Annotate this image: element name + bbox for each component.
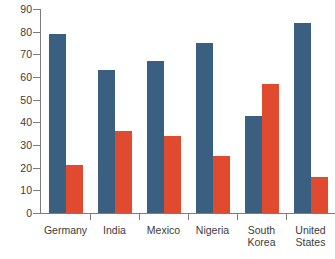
bar-group [286, 9, 335, 213]
x-tick [139, 213, 140, 220]
bar [262, 84, 279, 213]
y-tick-40 [33, 122, 40, 123]
bar [213, 156, 230, 213]
bar [196, 43, 213, 213]
y-tick-30 [33, 145, 40, 146]
y-tick-90 [33, 9, 40, 10]
bar [294, 23, 311, 213]
bar-group [237, 9, 286, 213]
y-axis-labels: 0102030405060708090 [0, 0, 32, 259]
bar [147, 61, 164, 213]
bar [98, 70, 115, 213]
y-tick-10 [33, 190, 40, 191]
y-tick-label-0: 0 [6, 208, 32, 218]
bar [115, 131, 132, 213]
x-tick [286, 213, 287, 220]
bar [245, 116, 262, 213]
bar-group [41, 9, 90, 213]
bar-chart: 0102030405060708090 GermanyIndiaMexicoNi… [0, 0, 335, 259]
bar-group [139, 9, 188, 213]
y-tick-20 [33, 168, 40, 169]
plot-area [41, 9, 335, 213]
x-tick-label: United States [286, 224, 335, 248]
y-tick-0 [33, 213, 40, 214]
y-tick-label-90: 90 [6, 4, 32, 14]
bar-group [90, 9, 139, 213]
bar-group [188, 9, 237, 213]
bar [49, 34, 66, 213]
x-tick-label: Nigeria [188, 224, 237, 236]
y-tick-label-70: 70 [6, 49, 32, 59]
y-tick-50 [33, 100, 40, 101]
x-tick [188, 213, 189, 220]
y-tick-label-10: 10 [6, 185, 32, 195]
y-tick-80 [33, 32, 40, 33]
y-tick-70 [33, 54, 40, 55]
bar [66, 165, 83, 213]
x-tick [237, 213, 238, 220]
y-tick-label-50: 50 [6, 95, 32, 105]
y-tick-label-80: 80 [6, 27, 32, 37]
y-tick-60 [33, 77, 40, 78]
x-tick-label: South Korea [237, 224, 286, 248]
x-tick [90, 213, 91, 220]
x-tick-label: Germany [41, 224, 90, 236]
y-tick-label-60: 60 [6, 72, 32, 82]
bar [164, 136, 181, 213]
bar [311, 177, 328, 213]
y-tick-label-30: 30 [6, 140, 32, 150]
y-tick-label-40: 40 [6, 117, 32, 127]
x-tick-label: India [90, 224, 139, 236]
y-tick-label-20: 20 [6, 163, 32, 173]
x-tick-label: Mexico [139, 224, 188, 236]
